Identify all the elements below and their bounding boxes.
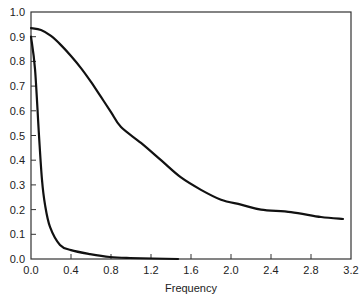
plot-frame: [31, 12, 351, 259]
x-tick-label: 2.0: [223, 264, 238, 276]
series-lines: [31, 28, 343, 259]
y-tick-label: 0.7: [10, 80, 25, 92]
y-tick-label: 0.4: [10, 154, 25, 166]
x-tick-label: 1.6: [183, 264, 198, 276]
x-tick-label: 0.4: [63, 264, 78, 276]
broad-curve-line: [31, 28, 343, 219]
y-tick-label: 0.3: [10, 179, 25, 191]
x-axis: 0.00.40.81.21.62.02.42.83.2: [23, 254, 358, 276]
x-tick-label: 1.2: [143, 264, 158, 276]
y-tick-label: 1.0: [10, 6, 25, 18]
x-tick-label: 2.4: [263, 264, 278, 276]
y-tick-label: 0.9: [10, 31, 25, 43]
x-axis-title: Frequency: [165, 282, 217, 294]
x-tick-label: 0.0: [23, 264, 38, 276]
y-tick-label: 0.6: [10, 105, 25, 117]
y-tick-label: 0.2: [10, 204, 25, 216]
y-tick-label: 0.1: [10, 228, 25, 240]
y-tick-label: 0.5: [10, 130, 25, 142]
x-tick-label: 0.8: [103, 264, 118, 276]
narrow-curve-line: [31, 37, 178, 259]
x-tick-label: 3.2: [343, 264, 358, 276]
y-tick-label: 0.8: [10, 55, 25, 67]
x-tick-label: 2.8: [303, 264, 318, 276]
chart: 0.00.10.20.30.40.50.60.70.80.91.0 0.00.4…: [0, 0, 363, 301]
